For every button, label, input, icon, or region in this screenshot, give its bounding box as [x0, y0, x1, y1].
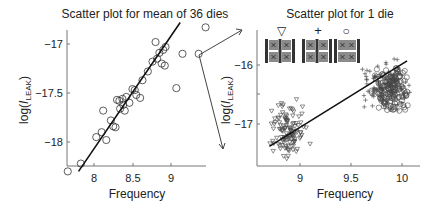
right-xtick: 9.5 — [343, 172, 358, 184]
right-ytick: −16 — [234, 59, 253, 71]
right-xtick: 10 — [396, 172, 408, 184]
left-scatter-points — [64, 24, 209, 175]
right-scatter-points — [268, 57, 412, 161]
connector-arrows — [199, 29, 242, 149]
left-xtick: 8 — [91, 172, 97, 184]
right-y-label: log(ILEAK) — [219, 76, 235, 124]
right-chart-title: Scatter plot for 1 die — [286, 7, 394, 21]
right-ytick: −17 — [234, 118, 253, 130]
right-xtick: 9 — [297, 172, 303, 184]
legend-circle-symbol: ○ — [342, 24, 349, 38]
left-chart-title: Scatter plot for mean of 36 dies — [62, 7, 229, 21]
right-chart: Scatter plot for 1 die 9 9.5 10 −16 −17 … — [219, 7, 420, 201]
left-y-label: log(ILEAK) — [17, 76, 33, 124]
legend-triangle-symbol: ▽ — [277, 24, 287, 38]
left-xtick: 9 — [168, 172, 174, 184]
left-fit-line — [79, 22, 181, 171]
right-x-label: Frequency — [317, 187, 374, 201]
legend-plus-symbol: + — [314, 23, 322, 38]
legend: ▽ + ○ — [265, 23, 360, 63]
figure: Scatter plot for mean of 36 dies 8 8.5 9… — [0, 0, 434, 209]
left-ytick: −17 — [44, 38, 63, 50]
left-xtick: 8.5 — [125, 172, 140, 184]
left-x-label: Frequency — [109, 187, 166, 201]
left-chart: Scatter plot for mean of 36 dies 8 8.5 9… — [17, 7, 228, 201]
left-ytick: −17.5 — [35, 87, 63, 99]
left-ytick: −18 — [44, 136, 63, 148]
arrow-up-right — [199, 30, 242, 55]
